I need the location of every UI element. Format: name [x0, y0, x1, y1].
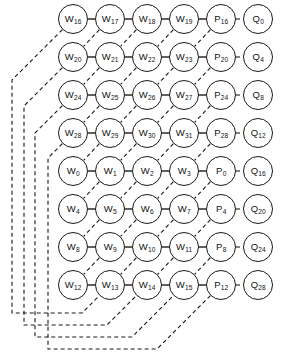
node-W9[interactable]: W9: [95, 232, 125, 262]
node-label: W24: [65, 90, 81, 100]
node-W3[interactable]: W3: [169, 156, 199, 186]
node-W0[interactable]: W0: [58, 156, 88, 186]
node-Q8[interactable]: Q8: [243, 80, 273, 110]
node-label: P4: [216, 204, 226, 214]
node-label: W30: [139, 128, 155, 138]
node-P16[interactable]: P16: [206, 4, 236, 34]
node-label: Q16: [251, 166, 266, 176]
edge-diagonal: [195, 30, 211, 47]
node-label: Q0: [252, 14, 263, 24]
node-label: W16: [65, 14, 81, 24]
node-W22[interactable]: W22: [132, 42, 162, 72]
node-W31[interactable]: W31: [169, 118, 199, 148]
node-W21[interactable]: W21: [95, 42, 125, 72]
node-label: W21: [102, 52, 118, 62]
node-W15[interactable]: W15: [169, 270, 199, 300]
node-P24[interactable]: P24: [206, 80, 236, 110]
node-Q12[interactable]: Q12: [243, 118, 273, 148]
edge-diagonal: [121, 182, 137, 199]
node-label: W20: [65, 52, 81, 62]
node-label: W17: [102, 14, 118, 24]
node-W27[interactable]: W27: [169, 80, 199, 110]
node-label: P16: [214, 14, 228, 24]
node-label: W12: [65, 280, 81, 290]
node-W20[interactable]: W20: [58, 42, 88, 72]
node-P12[interactable]: P12: [206, 270, 236, 300]
node-label: W7: [178, 204, 191, 214]
edge-diagonal: [121, 220, 137, 237]
node-label: W18: [139, 14, 155, 24]
node-P0[interactable]: P0: [206, 156, 236, 186]
node-W28[interactable]: W28: [58, 118, 88, 148]
node-P8[interactable]: P8: [206, 232, 236, 262]
edge-diagonal: [195, 68, 211, 85]
node-W12[interactable]: W12: [58, 270, 88, 300]
node-label: W23: [176, 52, 192, 62]
node-W18[interactable]: W18: [132, 4, 162, 34]
node-W19[interactable]: W19: [169, 4, 199, 34]
node-W16[interactable]: W16: [58, 4, 88, 34]
node-label: P0: [216, 166, 226, 176]
node-Q0[interactable]: Q0: [243, 4, 273, 34]
node-label: W26: [139, 90, 155, 100]
node-W8[interactable]: W8: [58, 232, 88, 262]
node-P20[interactable]: P20: [206, 42, 236, 72]
node-W23[interactable]: W23: [169, 42, 199, 72]
node-label: W3: [178, 166, 191, 176]
node-W6[interactable]: W6: [132, 194, 162, 224]
edge-diagonal: [195, 220, 211, 237]
edge-diagonal: [158, 220, 174, 237]
node-Q4[interactable]: Q4: [243, 42, 273, 72]
node-W1[interactable]: W1: [95, 156, 125, 186]
edge-diagonal: [121, 258, 137, 275]
diagram-canvas: W16W17W18W19P16Q0W20W21W22W23P20Q4W24W25…: [0, 0, 282, 361]
node-label: W29: [102, 128, 118, 138]
node-label: P8: [216, 242, 226, 252]
edge-diagonal: [121, 68, 137, 85]
node-W10[interactable]: W10: [132, 232, 162, 262]
edge-diagonal: [195, 144, 211, 161]
node-W25[interactable]: W25: [95, 80, 125, 110]
edge-diagonal: [195, 258, 211, 275]
node-label: W1: [104, 166, 117, 176]
node-label: W19: [176, 14, 192, 24]
node-label: Q28: [251, 280, 266, 290]
node-W26[interactable]: W26: [132, 80, 162, 110]
node-W2[interactable]: W2: [132, 156, 162, 186]
node-label: W15: [176, 280, 192, 290]
node-Q16[interactable]: Q16: [243, 156, 273, 186]
node-Q28[interactable]: Q28: [243, 270, 273, 300]
node-P28[interactable]: P28: [206, 118, 236, 148]
edge-diagonal: [158, 144, 174, 161]
node-label: W11: [176, 242, 192, 252]
edge-diagonal: [158, 68, 174, 85]
node-label: Q4: [252, 52, 263, 62]
node-label: Q12: [251, 128, 266, 138]
edge-diagonal: [84, 144, 100, 161]
node-label: Q24: [251, 242, 266, 252]
node-W5[interactable]: W5: [95, 194, 125, 224]
edge-diagonal: [84, 68, 100, 85]
node-W17[interactable]: W17: [95, 4, 125, 34]
node-W14[interactable]: W14: [132, 270, 162, 300]
node-W7[interactable]: W7: [169, 194, 199, 224]
node-Q24[interactable]: Q24: [243, 232, 273, 262]
edge-diagonal: [158, 182, 174, 199]
node-W4[interactable]: W4: [58, 194, 88, 224]
edge-diagonal: [84, 220, 100, 237]
edge-diagonal: [158, 30, 174, 47]
node-label: W9: [104, 242, 117, 252]
node-W30[interactable]: W30: [132, 118, 162, 148]
node-P4[interactable]: P4: [206, 194, 236, 224]
node-label: Q20: [251, 204, 266, 214]
node-W13[interactable]: W13: [95, 270, 125, 300]
node-W29[interactable]: W29: [95, 118, 125, 148]
node-label: P12: [214, 280, 228, 290]
node-Q20[interactable]: Q20: [243, 194, 273, 224]
node-W24[interactable]: W24: [58, 80, 88, 110]
node-label: W14: [139, 280, 155, 290]
edge-diagonal: [121, 30, 137, 47]
edge-diagonal: [158, 258, 174, 275]
node-label: W8: [67, 242, 80, 252]
node-W11[interactable]: W11: [169, 232, 199, 262]
